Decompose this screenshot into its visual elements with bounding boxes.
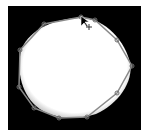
annotation-overlay[interactable] xyxy=(0,0,148,136)
